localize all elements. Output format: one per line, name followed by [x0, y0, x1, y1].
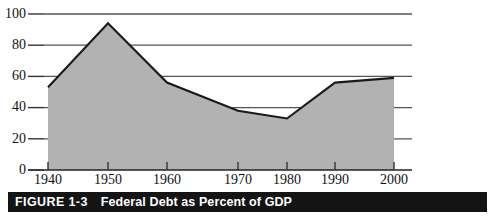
x-axis-label-2000: 2000: [370, 173, 418, 187]
y-axis-ticks: [28, 14, 44, 170]
chart-plot-area: 100 80 60 40 20 0 1940 1950 1960 1970 19…: [0, 0, 490, 188]
figure-number-label: FIGURE 1-3: [15, 195, 88, 209]
y-axis-label-60: 60: [0, 69, 26, 83]
area-chart-svg: [0, 0, 490, 188]
x-axis-label-1980: 1980: [263, 173, 311, 187]
x-axis-label-1960: 1960: [143, 173, 191, 187]
figure-caption-bar: FIGURE 1-3 Federal Debt as Percent of GD…: [8, 192, 487, 212]
figure-container: 100 80 60 40 20 0 1940 1950 1960 1970 19…: [0, 0, 490, 219]
x-axis-label-1970: 1970: [214, 173, 262, 187]
x-axis-label-1950: 1950: [84, 173, 132, 187]
y-axis-label-20: 20: [0, 132, 26, 146]
x-axis-label-1940: 1940: [24, 173, 72, 187]
y-axis-label-100: 100: [0, 7, 26, 21]
y-axis-label-0: 0: [0, 163, 26, 177]
y-axis-label-80: 80: [0, 38, 26, 52]
x-axis-label-1990: 1990: [311, 173, 359, 187]
y-axis-label-40: 40: [0, 100, 26, 114]
figure-title-label: Federal Debt as Percent of GDP: [101, 195, 292, 209]
